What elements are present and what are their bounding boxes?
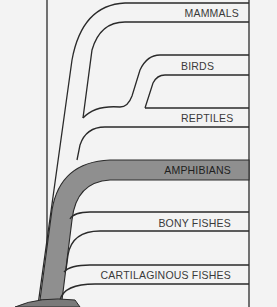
label-amphibians: AMPHIBIANS [164,164,231,176]
label-cartilaginous-fishes: CARTILAGINOUS FISHES [101,269,231,281]
label-mammals: MAMMALS [185,7,240,19]
evolution-tree-diagram: MAMMALS BIRDS REPTILES AMPHIBIANS BONY F… [0,0,277,307]
label-bony-fishes: BONY FISHES [158,217,231,229]
label-birds: BIRDS [181,60,214,72]
label-reptiles: REPTILES [181,112,233,124]
